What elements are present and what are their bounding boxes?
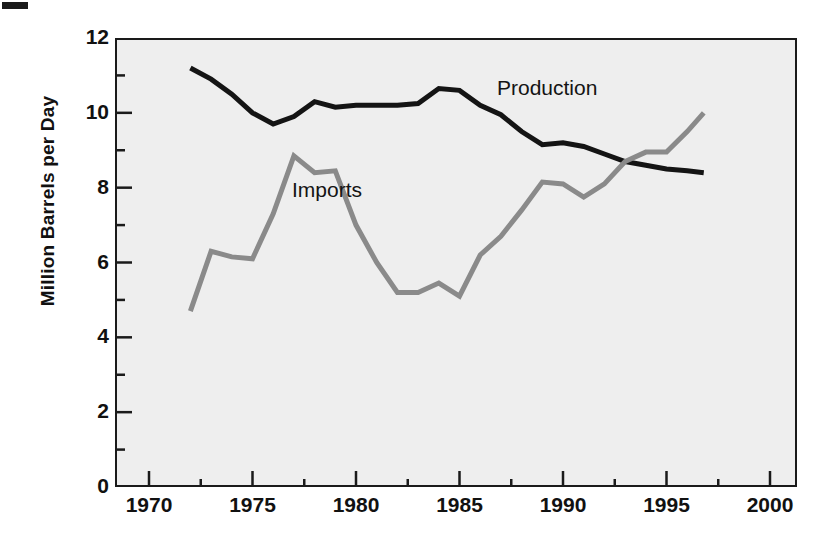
y-tick-label-4: 4 — [69, 325, 109, 346]
y-axis-tick-labels: 121086420 — [57, 0, 109, 546]
x-tick-label-1970: 1970 — [104, 494, 194, 515]
x-tick-label-1975: 1975 — [208, 494, 298, 515]
y-tick-label-6: 6 — [69, 251, 109, 272]
y-tick-label-8: 8 — [69, 176, 109, 197]
scan-artifact-mark — [2, 2, 28, 9]
x-tick-label-1990: 1990 — [518, 494, 608, 515]
series-label-production: Production — [497, 76, 597, 100]
y-tick-label-12: 12 — [69, 26, 109, 47]
series-label-imports: Imports — [292, 178, 362, 202]
y-tick-label-0: 0 — [69, 475, 109, 496]
x-tick-label-1985: 1985 — [415, 494, 505, 515]
plot-canvas — [115, 38, 797, 487]
chart-figure: Million Barrels per Day 121086420 197019… — [0, 0, 822, 546]
x-tick-label-1995: 1995 — [622, 494, 712, 515]
x-tick-label-2000: 2000 — [725, 494, 815, 515]
x-tick-label-1980: 1980 — [311, 494, 401, 515]
y-tick-label-2: 2 — [69, 400, 109, 421]
series-line-imports — [190, 113, 703, 311]
series-line-production — [190, 68, 703, 173]
y-axis-title: Million Barrels per Day — [37, 41, 59, 361]
y-tick-label-10: 10 — [69, 101, 109, 122]
